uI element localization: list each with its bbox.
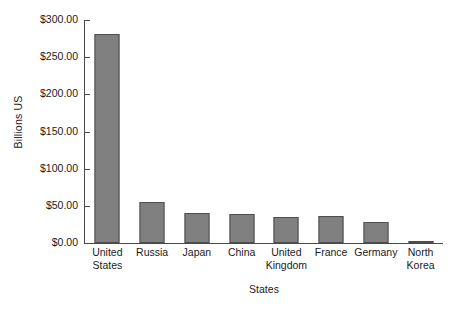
bar-slot [354, 20, 399, 243]
bar-slot [309, 20, 354, 243]
x-axis-category-label: China [219, 246, 264, 259]
x-axis-category-label: United States [85, 246, 130, 272]
x-axis-category-label: Russia [130, 246, 175, 259]
bar[interactable] [363, 222, 388, 243]
x-axis-labels: United StatesRussiaJapanChinaUnited King… [85, 246, 443, 286]
bar-slot [175, 20, 220, 243]
bar-slot [130, 20, 175, 243]
y-axis-tick-label: $250.00 [22, 50, 78, 62]
bar[interactable] [229, 214, 254, 243]
bar-slot [219, 20, 264, 243]
x-axis-category-label: United Kingdom [264, 246, 309, 272]
x-axis-title: States [85, 283, 443, 295]
bar-chart: Billions US $0.00$50.00$100.00$150.00$20… [0, 0, 458, 311]
x-axis-line [84, 243, 443, 244]
bar[interactable] [184, 213, 209, 243]
bar[interactable] [319, 216, 344, 243]
bar[interactable] [408, 241, 433, 243]
x-axis-title-label: States [249, 283, 279, 295]
bar[interactable] [95, 34, 120, 243]
x-axis-category-label: Germany [354, 246, 399, 259]
y-axis-title-label: Billions US [12, 95, 24, 148]
bar[interactable] [140, 202, 165, 243]
bar[interactable] [274, 217, 299, 243]
plot-area [85, 20, 443, 243]
x-axis-category-label: France [309, 246, 354, 259]
y-axis-tick-label: $100.00 [22, 162, 78, 174]
x-axis-category-label: Japan [175, 246, 220, 259]
bar-slot [398, 20, 443, 243]
y-axis-tick-label: $300.00 [22, 13, 78, 25]
y-axis-tick-label: $0.00 [22, 236, 78, 248]
y-axis-tick-label: $200.00 [22, 87, 78, 99]
y-axis-tick-label: $50.00 [22, 199, 78, 211]
y-axis-tick-label: $150.00 [22, 125, 78, 137]
x-axis-category-label: North Korea [398, 246, 443, 272]
bar-slot [264, 20, 309, 243]
bar-slot [85, 20, 130, 243]
